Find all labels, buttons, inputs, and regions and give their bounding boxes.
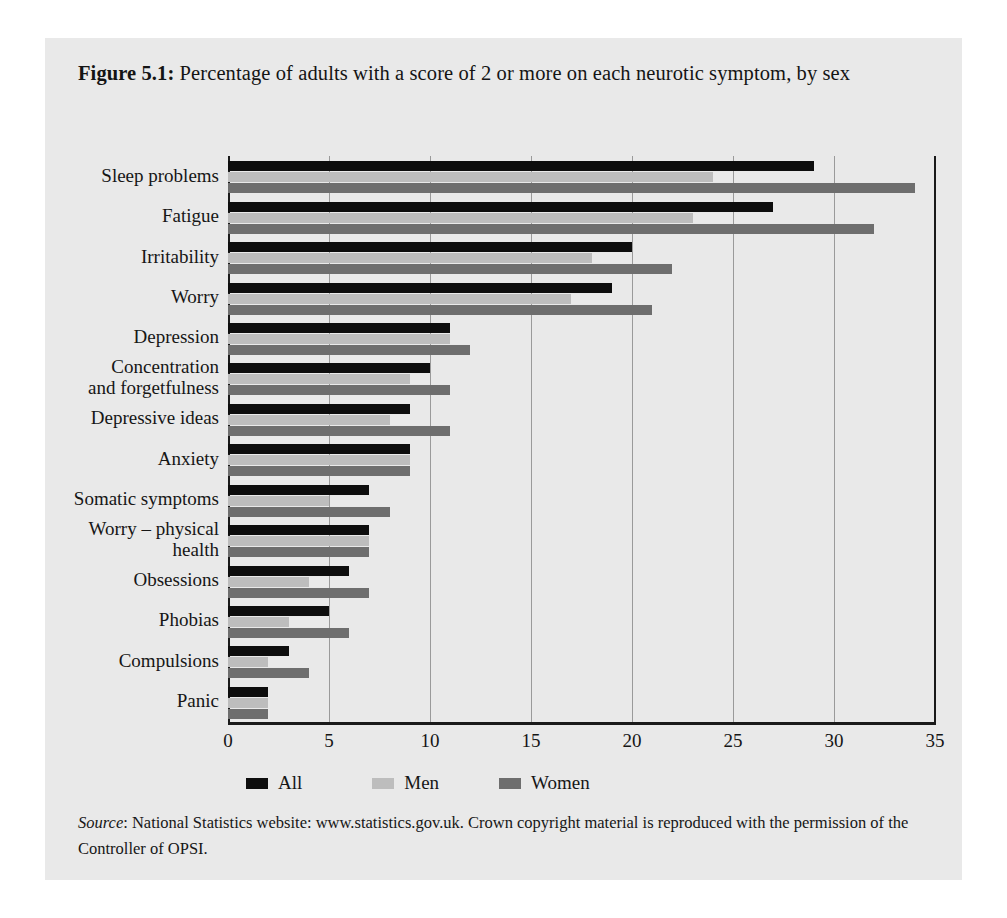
x-tick-20: 20 <box>623 730 642 752</box>
category-axis-labels: Sleep problemsFatigueIrritabilityWorryDe… <box>45 156 219 722</box>
bar-women <box>228 264 672 274</box>
x-axis-line <box>228 722 936 725</box>
bar-men <box>228 294 571 304</box>
legend-label: Women <box>531 772 590 794</box>
legend-label: Men <box>404 772 439 794</box>
bar-women <box>228 345 470 355</box>
bar-men <box>228 374 410 384</box>
bar-group <box>228 444 935 476</box>
legend-label: All <box>278 772 302 794</box>
bar-men <box>228 213 693 223</box>
bar-women <box>228 224 874 234</box>
category-label-13: Compulsions <box>119 650 219 671</box>
bar-all <box>228 283 612 293</box>
category-label-14: Panic <box>177 690 219 711</box>
page-background <box>0 0 1007 36</box>
category-label-9: Somatic symptoms <box>74 488 219 509</box>
source-note: Source: National Statistics website: www… <box>78 810 933 862</box>
category-label-10: Worry – physical health <box>89 518 219 560</box>
x-tick-15: 15 <box>522 730 541 752</box>
bar-all <box>228 404 410 414</box>
bar-women <box>228 668 309 678</box>
bar-all <box>228 566 349 576</box>
figure-caption: Figure 5.1: Percentage of adults with a … <box>78 58 918 89</box>
bar-all <box>228 242 632 252</box>
legend-swatch-men-icon <box>372 778 394 789</box>
bar-men <box>228 536 369 546</box>
bar-all <box>228 161 814 171</box>
legend-item-women[interactable]: Women <box>499 772 590 794</box>
bar-all <box>228 646 289 656</box>
bar-women <box>228 385 450 395</box>
bar-group <box>228 606 935 638</box>
bar-group <box>228 404 935 436</box>
bar-all <box>228 363 430 373</box>
bar-men <box>228 415 390 425</box>
bar-men <box>228 496 329 506</box>
bar-group <box>228 283 935 315</box>
x-tick-0: 0 <box>223 730 233 752</box>
bar-men <box>228 172 713 182</box>
legend-swatch-women-icon <box>499 778 521 789</box>
bar-group <box>228 202 935 234</box>
x-tick-10: 10 <box>421 730 440 752</box>
x-tick-25: 25 <box>724 730 743 752</box>
legend-item-all[interactable]: All <box>246 772 302 794</box>
bar-women <box>228 628 349 638</box>
bar-women <box>228 426 450 436</box>
x-tick-35: 35 <box>926 730 945 752</box>
bar-men <box>228 698 268 708</box>
bar-all <box>228 606 329 616</box>
source-label: Source <box>78 813 123 832</box>
bar-group <box>228 525 935 557</box>
bar-all <box>228 687 268 697</box>
bar-men <box>228 455 410 465</box>
bar-group <box>228 161 935 193</box>
category-label-7: Depressive ideas <box>91 407 219 428</box>
bar-men <box>228 657 268 667</box>
bar-women <box>228 305 652 315</box>
chart-legend: AllMenWomen <box>228 770 590 796</box>
figure-caption-text: Percentage of adults with a score of 2 o… <box>174 62 850 84</box>
bar-men <box>228 617 289 627</box>
bar-men <box>228 577 309 587</box>
category-label-5: Depression <box>134 326 219 347</box>
bar-women <box>228 588 369 598</box>
bar-women <box>228 183 915 193</box>
bar-women <box>228 547 369 557</box>
bar-men <box>228 334 450 344</box>
figure-label: Figure 5.1: <box>78 62 174 84</box>
x-axis-tick-labels: 05101520253035 <box>228 730 948 760</box>
bar-group <box>228 687 935 719</box>
bar-all <box>228 525 369 535</box>
bar-all <box>228 323 450 333</box>
category-label-3: Irritability <box>141 246 219 267</box>
bar-group <box>228 323 935 355</box>
category-label-2: Fatigue <box>162 205 219 226</box>
bar-group <box>228 646 935 678</box>
bar-group <box>228 363 935 395</box>
legend-item-men[interactable]: Men <box>372 772 439 794</box>
bar-all <box>228 485 369 495</box>
bar-women <box>228 507 390 517</box>
bar-all <box>228 202 773 212</box>
x-tick-30: 30 <box>825 730 844 752</box>
bar-group <box>228 242 935 274</box>
bar-group <box>228 485 935 517</box>
plot-area <box>228 156 935 722</box>
category-label-6: Concentration and forgetfulness <box>88 356 219 398</box>
category-label-1: Sleep problems <box>101 165 219 186</box>
category-label-4: Worry <box>171 286 219 307</box>
bar-all <box>228 444 410 454</box>
x-tick-5: 5 <box>324 730 334 752</box>
source-text: : National Statistics website: www.stati… <box>78 813 908 858</box>
bar-group <box>228 566 935 598</box>
figure-panel: Figure 5.1: Percentage of adults with a … <box>45 38 962 880</box>
legend-swatch-all-icon <box>246 778 268 789</box>
bar-women <box>228 466 410 476</box>
category-label-12: Phobias <box>159 609 219 630</box>
bar-women <box>228 709 268 719</box>
category-label-11: Obsessions <box>133 569 219 590</box>
category-label-8: Anxiety <box>158 448 219 469</box>
bar-men <box>228 253 592 263</box>
